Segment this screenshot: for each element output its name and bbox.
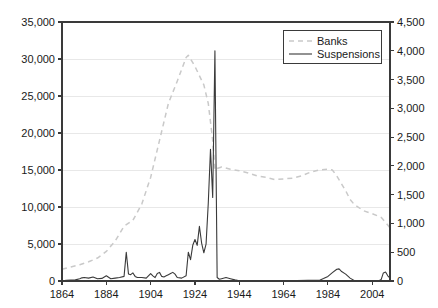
y-axis-right-tick-label: 500 (397, 246, 415, 258)
legend-layer: BanksSuspensions (283, 30, 381, 63)
x-axis-tick-label: 1964 (271, 288, 295, 300)
y-axis-right-tick-label: 3,500 (397, 74, 425, 86)
y-axis-left-tick-label: 5,000 (27, 238, 55, 250)
series-layer (62, 51, 390, 281)
y-axis-right-tick-label: 2,000 (397, 160, 425, 172)
x-axis-tick-label: 2004 (360, 288, 384, 300)
y-axis-left-tick-label: 35,000 (21, 16, 55, 28)
y-axis-right-tick-label: 4,000 (397, 45, 425, 57)
x-axis-tick-label: 1904 (138, 288, 162, 300)
x-axis-tick-label: 1944 (227, 288, 251, 300)
dual-axis-line-chart: 05,00010,00015,00020,00025,00030,00035,0… (0, 0, 438, 308)
y-axis-right-tick-label: 4,500 (397, 16, 425, 28)
y-axis-left-tick-label: 15,000 (21, 164, 55, 176)
chart-container: 05,00010,00015,00020,00025,00030,00035,0… (0, 0, 438, 308)
y-axis-left-tick-label: 30,000 (21, 53, 55, 65)
x-axis-tick-label: 1924 (183, 288, 207, 300)
y-axis-left-tick-label: 0 (49, 275, 55, 287)
y-axis-right-tick-label: 0 (397, 275, 403, 287)
x-axis-tick-label: 1884 (94, 288, 118, 300)
y-axis-left-tick-label: 25,000 (21, 90, 55, 102)
y-axis-left-tick-label: 10,000 (21, 201, 55, 213)
x-axis-tick-label: 1864 (50, 288, 74, 300)
series-line-banks (62, 55, 390, 269)
y-axis-right-tick-label: 1,500 (397, 189, 425, 201)
y-axis-left-tick-label: 20,000 (21, 127, 55, 139)
legend-label-suspensions: Suspensions (317, 48, 380, 60)
y-axis-right-tick-label: 1,000 (397, 217, 425, 229)
legend-label-banks: Banks (317, 35, 348, 47)
x-axis-tick-label: 1984 (316, 288, 340, 300)
y-axis-right-tick-label: 3,000 (397, 102, 425, 114)
y-axis-right-tick-label: 2,500 (397, 131, 425, 143)
